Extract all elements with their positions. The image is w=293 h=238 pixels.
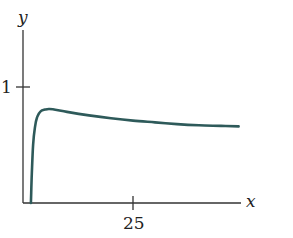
y-tick-label-1: 1 xyxy=(1,77,12,97)
chart: y x 1 25 xyxy=(0,0,293,238)
data-curve xyxy=(31,109,239,203)
x-tick-label-25: 25 xyxy=(123,213,145,233)
x-axis-label: x xyxy=(246,191,256,211)
y-axis-label: y xyxy=(17,7,28,27)
